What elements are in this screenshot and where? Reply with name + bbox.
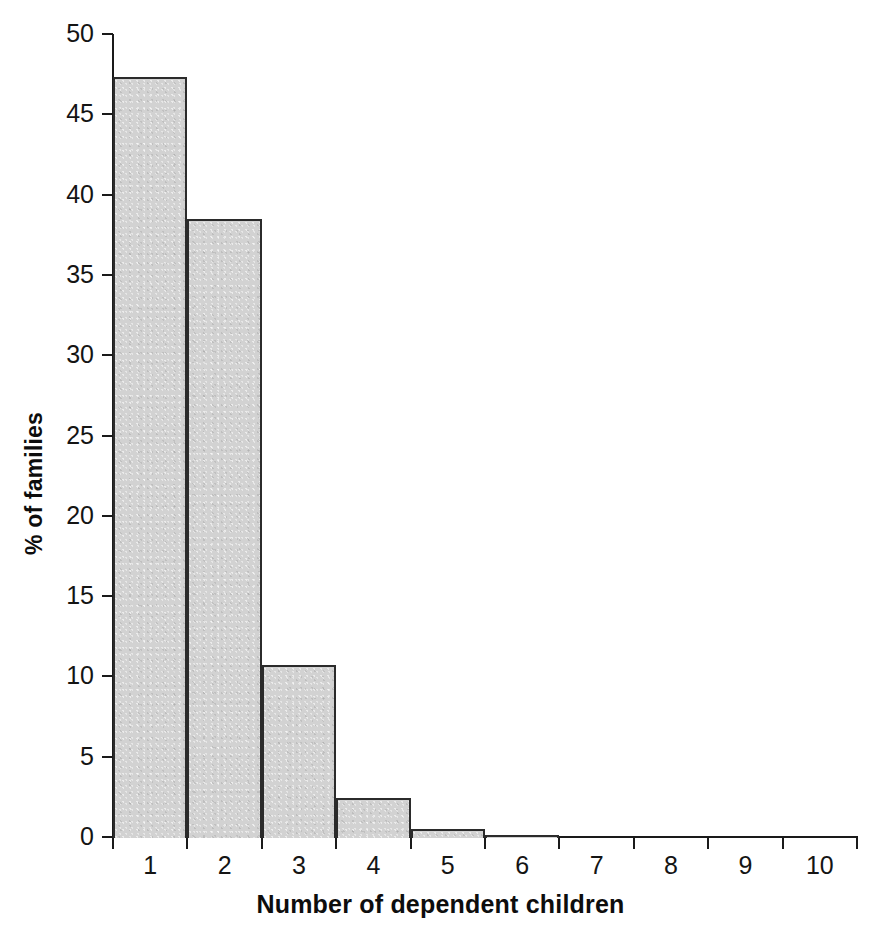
x-tick-label: 2 — [185, 851, 265, 879]
y-tick-label: 35 — [26, 261, 94, 287]
y-tick-mark — [102, 435, 113, 437]
x-tick-mark — [410, 838, 412, 849]
y-tick-mark — [102, 756, 113, 758]
x-tick-mark — [484, 838, 486, 849]
x-tick-label: 6 — [482, 851, 562, 879]
y-tick-label: 5 — [26, 743, 94, 769]
y-tick-mark — [102, 274, 113, 276]
bar — [262, 665, 336, 838]
y-tick-mark — [102, 595, 113, 597]
x-tick-label: 8 — [631, 851, 711, 879]
x-tick-label: 5 — [408, 851, 488, 879]
y-axis-title: % of families — [21, 364, 48, 604]
bar — [485, 835, 559, 838]
y-tick-label: 45 — [26, 100, 94, 126]
y-tick-label: 0 — [26, 823, 94, 849]
y-tick-label: 40 — [26, 181, 94, 207]
y-tick-label: 50 — [26, 20, 94, 46]
bar — [187, 219, 261, 838]
x-tick-mark — [707, 838, 709, 849]
x-tick-mark — [782, 838, 784, 849]
x-tick-label: 1 — [110, 851, 190, 879]
x-tick-mark — [112, 838, 114, 849]
y-tick-mark — [102, 33, 113, 35]
x-tick-mark — [261, 838, 263, 849]
x-tick-label: 7 — [557, 851, 637, 879]
y-tick-mark — [102, 515, 113, 517]
y-tick-mark — [102, 675, 113, 677]
x-tick-mark — [186, 838, 188, 849]
bar — [411, 829, 485, 838]
x-tick-mark — [558, 838, 560, 849]
y-tick-mark — [102, 354, 113, 356]
x-tick-mark — [335, 838, 337, 849]
bar — [113, 77, 187, 838]
x-tick-mark — [856, 838, 858, 849]
histogram-chart: 05101520253035404550 12345678910 Number … — [0, 0, 881, 934]
x-tick-label: 4 — [333, 851, 413, 879]
bar — [336, 798, 410, 838]
x-axis-title: Number of dependent children — [0, 890, 881, 919]
y-tick-mark — [102, 194, 113, 196]
y-tick-label: 10 — [26, 662, 94, 688]
x-tick-label: 10 — [780, 851, 860, 879]
y-tick-mark — [102, 113, 113, 115]
x-tick-label: 9 — [705, 851, 785, 879]
x-tick-mark — [633, 838, 635, 849]
x-tick-label: 3 — [259, 851, 339, 879]
